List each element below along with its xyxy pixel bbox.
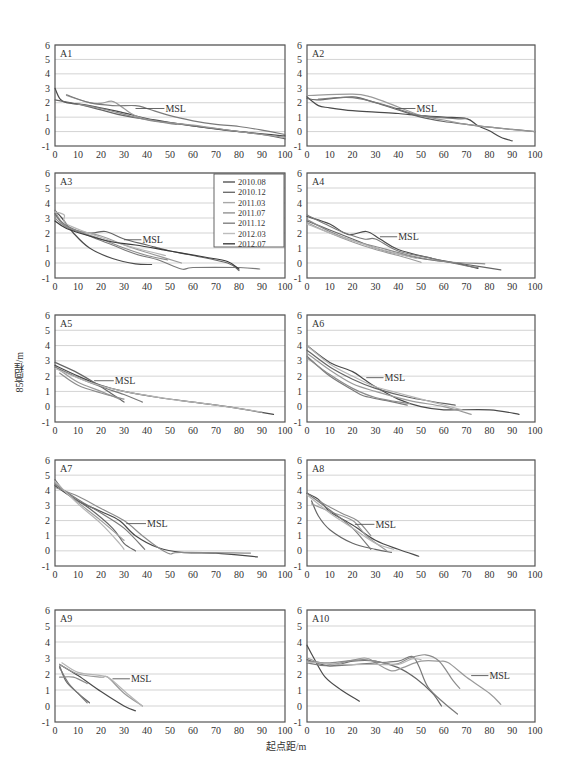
msl-label: MSL bbox=[115, 375, 136, 386]
x-tick-label: 70 bbox=[462, 281, 472, 292]
legend-entry: 2011.03 bbox=[238, 198, 265, 208]
x-tick-label: 0 bbox=[305, 149, 310, 160]
panel-title: A6 bbox=[312, 318, 324, 329]
x-tick-label: 60 bbox=[439, 281, 449, 292]
x-tick-label: 100 bbox=[278, 725, 293, 736]
y-tick-label: 5 bbox=[297, 325, 302, 336]
y-tick-label: 6 bbox=[45, 168, 50, 179]
y-tick-label: 0 bbox=[297, 258, 302, 269]
y-tick-label: -1 bbox=[42, 561, 50, 572]
x-tick-label: 30 bbox=[370, 281, 380, 292]
y-tick-label: 6 bbox=[297, 310, 302, 321]
x-tick-label: 40 bbox=[142, 281, 152, 292]
x-tick-label: 0 bbox=[53, 569, 58, 580]
x-tick-label: 20 bbox=[96, 425, 106, 436]
x-axis-label: 起点距/m bbox=[0, 738, 572, 753]
legend-entry: 2010.12 bbox=[238, 187, 266, 197]
y-tick-label: -1 bbox=[42, 717, 50, 728]
x-tick-label: 60 bbox=[439, 569, 449, 580]
legend-entry: 2012.07 bbox=[238, 239, 266, 249]
x-tick-label: 70 bbox=[211, 569, 221, 580]
y-tick-label: 1 bbox=[297, 243, 302, 254]
y-tick-label: 0 bbox=[45, 401, 50, 412]
y-tick-label: 1 bbox=[45, 243, 50, 254]
x-tick-label: 30 bbox=[370, 569, 380, 580]
y-tick-label: 6 bbox=[297, 168, 302, 179]
y-tick-label: 5 bbox=[297, 621, 302, 632]
x-tick-label: 60 bbox=[188, 569, 198, 580]
y-tick-label: 5 bbox=[297, 54, 302, 65]
y-tick-label: 4 bbox=[45, 198, 50, 209]
series-line bbox=[318, 501, 370, 536]
x-tick-label: 30 bbox=[370, 425, 380, 436]
x-tick-label: 100 bbox=[278, 149, 293, 160]
msl-label: MSL bbox=[147, 518, 168, 529]
x-tick-label: 90 bbox=[507, 425, 517, 436]
x-tick-label: 10 bbox=[73, 569, 83, 580]
y-tick-label: 2 bbox=[297, 228, 302, 239]
x-tick-label: 40 bbox=[393, 149, 403, 160]
x-tick-label: 10 bbox=[325, 569, 335, 580]
plot-frame bbox=[55, 610, 285, 722]
y-tick-label: 4 bbox=[297, 637, 302, 648]
y-tick-label: 6 bbox=[45, 605, 50, 616]
y-tick-label: 3 bbox=[45, 213, 50, 224]
y-tick-label: 6 bbox=[297, 40, 302, 51]
x-tick-label: 60 bbox=[439, 149, 449, 160]
legend-entry: 2011.07 bbox=[238, 208, 265, 218]
panel-title: A9 bbox=[60, 613, 72, 624]
x-tick-label: 10 bbox=[325, 281, 335, 292]
x-tick-label: 100 bbox=[278, 281, 293, 292]
y-tick-label: -1 bbox=[294, 141, 302, 152]
y-tick-label: 4 bbox=[45, 485, 50, 496]
x-tick-label: 50 bbox=[416, 149, 426, 160]
x-tick-label: 40 bbox=[142, 149, 152, 160]
y-tick-label: 6 bbox=[45, 455, 50, 466]
x-tick-label: 100 bbox=[528, 569, 543, 580]
y-tick-label: 5 bbox=[45, 183, 50, 194]
y-tick-label: 3 bbox=[297, 500, 302, 511]
x-tick-label: 30 bbox=[119, 725, 129, 736]
y-tick-label: 5 bbox=[45, 621, 50, 632]
x-tick-label: 60 bbox=[188, 149, 198, 160]
x-tick-label: 70 bbox=[211, 425, 221, 436]
x-tick-label: 70 bbox=[211, 281, 221, 292]
y-tick-label: 6 bbox=[45, 40, 50, 51]
y-tick-label: -1 bbox=[294, 561, 302, 572]
x-tick-label: 40 bbox=[142, 725, 152, 736]
y-tick-label: 5 bbox=[45, 470, 50, 481]
x-tick-label: 20 bbox=[348, 425, 358, 436]
y-tick-label: 4 bbox=[297, 340, 302, 351]
x-tick-label: 90 bbox=[507, 569, 517, 580]
x-tick-label: 80 bbox=[234, 725, 244, 736]
series-line bbox=[307, 660, 442, 706]
x-tick-label: 60 bbox=[439, 725, 449, 736]
x-tick-label: 50 bbox=[165, 281, 175, 292]
msl-label: MSL bbox=[385, 372, 406, 383]
x-tick-label: 90 bbox=[507, 149, 517, 160]
x-tick-label: 70 bbox=[211, 149, 221, 160]
x-tick-label: 90 bbox=[507, 281, 517, 292]
y-tick-label: 3 bbox=[45, 653, 50, 664]
x-tick-label: 30 bbox=[370, 725, 380, 736]
panel-title: A7 bbox=[60, 463, 72, 474]
x-tick-label: 40 bbox=[393, 725, 403, 736]
panel-a1: -101234560102030405060708090100A1MSL bbox=[42, 40, 293, 161]
x-tick-label: 40 bbox=[393, 569, 403, 580]
x-tick-label: 60 bbox=[188, 281, 198, 292]
figure: -101234560102030405060708090100A1MSL-101… bbox=[0, 0, 572, 783]
x-tick-label: 60 bbox=[439, 425, 449, 436]
y-tick-label: 0 bbox=[45, 545, 50, 556]
x-tick-label: 0 bbox=[53, 281, 58, 292]
x-tick-label: 70 bbox=[462, 569, 472, 580]
y-tick-label: 5 bbox=[297, 470, 302, 481]
y-tick-label: 0 bbox=[297, 701, 302, 712]
y-tick-label: -1 bbox=[294, 273, 302, 284]
series-line bbox=[307, 655, 460, 689]
series-line bbox=[307, 493, 371, 549]
plot-frame bbox=[307, 315, 535, 422]
panel-title: A10 bbox=[312, 613, 329, 624]
x-tick-label: 10 bbox=[325, 425, 335, 436]
x-tick-label: 30 bbox=[119, 149, 129, 160]
x-tick-label: 50 bbox=[165, 425, 175, 436]
